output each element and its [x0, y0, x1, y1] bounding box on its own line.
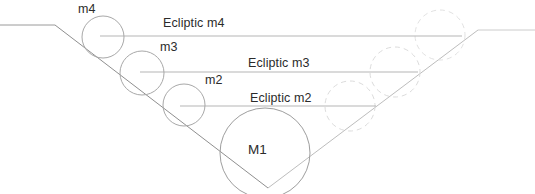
label-ecliptic-m3: Ecliptic m3 — [248, 56, 310, 70]
body-m4-mirror-circle — [415, 10, 465, 60]
body-m4-circle — [82, 16, 124, 58]
diagram-canvas: m4 m3 m2 M1 Ecliptic m4 Ecliptic m3 Ecli… — [0, 0, 535, 194]
label-ecliptic-m4: Ecliptic m4 — [163, 16, 225, 30]
body-m2-circle — [163, 84, 205, 126]
well-right-slope-line — [268, 30, 478, 188]
label-m3: m3 — [160, 40, 178, 54]
mirror-bodies-group — [325, 10, 465, 131]
body-m3-circle — [120, 51, 164, 95]
bodies-group — [82, 16, 310, 194]
label-m2: m2 — [205, 73, 223, 87]
label-m4: m4 — [78, 2, 96, 16]
label-m1: M1 — [248, 142, 267, 157]
label-ecliptic-m2: Ecliptic m2 — [250, 91, 312, 105]
